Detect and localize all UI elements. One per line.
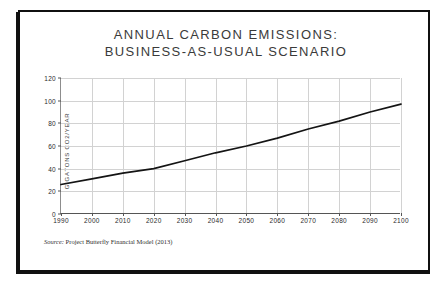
x-tick-label: 2080	[331, 217, 347, 224]
y-tick-label: 60	[48, 143, 56, 150]
y-tick-label: 80	[48, 120, 56, 127]
x-tick-label: 2060	[270, 217, 286, 224]
source-text: Project Butterfly Financial Model (2013)	[66, 238, 173, 245]
x-tick-label: 2030	[177, 217, 193, 224]
x-tick-mark	[401, 213, 402, 216]
x-tick-label: 2000	[84, 217, 100, 224]
x-tick-label: 2100	[393, 217, 409, 224]
gridline-vertical	[401, 78, 402, 213]
y-tick-label: 40	[48, 165, 56, 172]
y-tick-label: 120	[44, 75, 56, 82]
x-tick-label: 2050	[239, 217, 255, 224]
chart-title-line-2: BUSINESS-AS-USUAL SCENARIO	[20, 43, 432, 60]
x-tick-label: 2010	[115, 217, 131, 224]
x-tick-label: 1990	[53, 217, 69, 224]
series-line-chart	[61, 78, 401, 214]
source-label: Source:	[44, 238, 64, 245]
x-tick-label: 2020	[146, 217, 162, 224]
x-tick-label: 2070	[300, 217, 316, 224]
chart-title-line-1: ANNUAL CARBON EMISSIONS:	[20, 26, 432, 43]
source-note: Source: Project Butterfly Financial Mode…	[44, 238, 172, 245]
series-line-business-as-usual	[61, 104, 401, 184]
chart-title: ANNUAL CARBON EMISSIONS: BUSINESS-AS-USU…	[20, 26, 432, 60]
figure-page: ANNUAL CARBON EMISSIONS: BUSINESS-AS-USU…	[0, 0, 446, 285]
x-tick-label: 2090	[362, 217, 378, 224]
chart-area: GIGATONS CO2/YEAR 020406080100120 199020…	[60, 78, 400, 224]
y-tick-label: 20	[48, 188, 56, 195]
page-frame: ANNUAL CARBON EMISSIONS: BUSINESS-AS-USU…	[18, 10, 430, 272]
plot-area: 020406080100120 199020002010202020302040…	[60, 78, 400, 214]
y-tick-label: 100	[44, 97, 56, 104]
x-tick-label: 2040	[208, 217, 224, 224]
